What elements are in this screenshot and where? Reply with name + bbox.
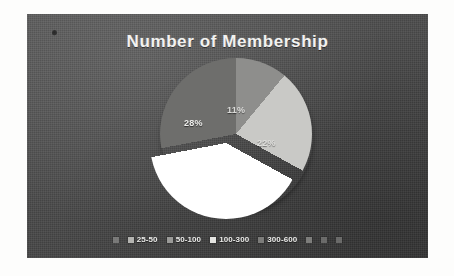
- legend-label: 50-100: [176, 235, 202, 244]
- screenshot-root: Number of Membership 11% 22% 28% 25-5050…: [0, 0, 454, 276]
- legend-item-100-300[interactable]: 100-300: [210, 235, 249, 244]
- chart-panel: Number of Membership 11% 22% 28% 25-5050…: [27, 14, 428, 258]
- legend-item-50-100[interactable]: 50-100: [167, 235, 202, 244]
- pie-disc[interactable]: [160, 58, 312, 210]
- legend-item-blank-7[interactable]: [336, 237, 342, 243]
- chart-title: Number of Membership: [27, 32, 428, 52]
- legend-item-25-50[interactable]: 25-50: [128, 235, 158, 244]
- legend-swatch-icon: [306, 237, 312, 243]
- legend-label: 300-600: [267, 235, 297, 244]
- legend-item-blank-0[interactable]: [113, 237, 119, 243]
- pie-label-25-50: 11%: [227, 105, 245, 115]
- legend-swatch-icon: [258, 237, 264, 243]
- legend-label: 100-300: [219, 235, 249, 244]
- legend-swatch-icon: [321, 237, 327, 243]
- legend-swatch-icon: [210, 237, 216, 243]
- pie-label-300-600: 28%: [184, 118, 203, 128]
- pie-wrap: 11% 22% 28%: [150, 58, 310, 225]
- pie-label-50-100: 22%: [257, 138, 276, 148]
- legend-item-blank-5[interactable]: [306, 237, 312, 243]
- legend-swatch-icon: [336, 237, 342, 243]
- chart-legend: 25-5050-100100-300300-600: [27, 235, 428, 244]
- legend-swatch-icon: [113, 237, 119, 243]
- legend-item-300-600[interactable]: 300-600: [258, 235, 297, 244]
- legend-swatch-icon: [128, 237, 134, 243]
- legend-swatch-icon: [167, 237, 173, 243]
- legend-label: 25-50: [137, 235, 158, 244]
- pie-chart: 11% 22% 28%: [27, 54, 428, 229]
- legend-item-blank-6[interactable]: [321, 237, 327, 243]
